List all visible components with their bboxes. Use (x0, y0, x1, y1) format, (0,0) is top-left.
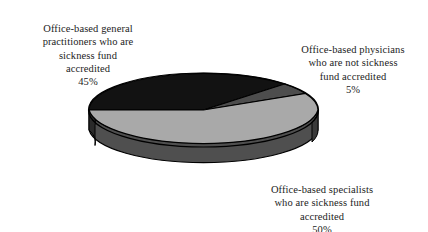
pie-label-specialists: Office-based specialists who are sicknes… (236, 170, 408, 232)
pie-label-specialists-percent: 50% (236, 223, 408, 232)
pie-label-gp: Office-based general practitioners who a… (8, 9, 168, 101)
pie-label-specialists-text: Office-based specialists who are sicknes… (271, 184, 373, 221)
pie-label-physicians-text: Office-based physicians who are not sick… (301, 44, 404, 81)
pie-label-gp-text: Office-based general practitioners who a… (43, 23, 134, 74)
pie-label-gp-percent: 45% (8, 75, 168, 88)
pie-label-physicians-percent: 5% (280, 83, 426, 96)
pie-chart-figure: Office-based general practitioners who a… (0, 0, 428, 232)
pie-label-physicians: Office-based physicians who are not sick… (280, 30, 426, 109)
